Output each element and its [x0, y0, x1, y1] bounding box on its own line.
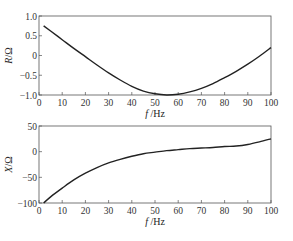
x-tick-label: 10: [57, 98, 67, 108]
x-tick-label: 20: [81, 98, 91, 108]
plot-frame: [39, 126, 271, 203]
y-axis-label: X/Ω: [3, 156, 14, 173]
x-tick-label: 80: [220, 98, 230, 108]
series-line-R: [44, 26, 271, 95]
x-tick-label: 30: [104, 98, 114, 108]
y-tick-label: 0: [32, 147, 37, 157]
plot-frame: [39, 16, 271, 95]
y-tick-label: 50: [28, 122, 38, 132]
reactance-plot: 0102030405060708090100−100−50050f /HzX/Ω: [3, 122, 278, 228]
x-tick-label: 40: [127, 206, 137, 216]
y-tick-label: 0.5: [25, 31, 37, 41]
x-axis-label: f /Hz: [145, 108, 165, 119]
x-tick-label: 90: [243, 206, 253, 216]
x-axis-label: f /Hz: [145, 216, 165, 227]
resistance-plot: 0102030405060708090100−1.0−0.500.51.0f /…: [3, 12, 278, 120]
y-axis-label: R/Ω: [3, 47, 14, 64]
x-tick-label: 10: [57, 206, 67, 216]
y-tick-label: 0: [32, 51, 37, 61]
x-tick-label: 70: [197, 98, 207, 108]
x-tick-label: 50: [150, 206, 160, 216]
x-tick-label: 40: [127, 98, 137, 108]
x-tick-label: 90: [243, 98, 253, 108]
x-tick-label: 100: [264, 98, 279, 108]
x-tick-label: 50: [150, 98, 160, 108]
x-tick-label: 80: [220, 206, 230, 216]
x-tick-label: 100: [264, 206, 279, 216]
series-line-X: [44, 139, 271, 203]
y-tick-label: −50: [22, 173, 37, 183]
chart-canvas: 0102030405060708090100−1.0−0.500.51.0f /…: [0, 0, 293, 241]
x-tick-label: 20: [81, 206, 91, 216]
y-tick-label: −100: [17, 199, 37, 209]
x-tick-label: 70: [197, 206, 207, 216]
y-tick-label: −1.0: [20, 91, 37, 101]
y-tick-label: 1.0: [25, 12, 37, 22]
x-tick-label: 60: [173, 98, 183, 108]
x-tick-label: 0: [37, 98, 42, 108]
x-tick-label: 60: [173, 206, 183, 216]
x-tick-label: 0: [37, 206, 42, 216]
y-tick-label: −0.5: [20, 71, 37, 81]
x-tick-label: 30: [104, 206, 114, 216]
